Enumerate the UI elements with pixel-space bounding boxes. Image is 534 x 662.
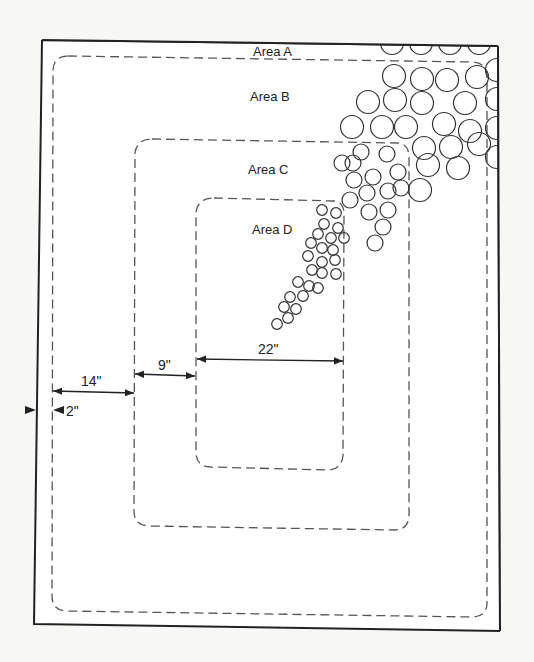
area-c-label: Area C xyxy=(248,162,288,177)
dimension-label-9in: 9" xyxy=(158,357,171,373)
dimension-arrowhead-outer-left xyxy=(25,406,36,414)
area-b-label: Area B xyxy=(250,89,290,104)
outer-frame xyxy=(34,40,500,631)
frame-mask-right xyxy=(498,46,534,662)
dimension-label-14in: 14" xyxy=(81,373,102,389)
area-a-label: Area A xyxy=(253,44,292,59)
dimension-label-2in: 2" xyxy=(66,403,79,419)
frame-mask-top xyxy=(0,0,534,46)
area-layout-diagram: Area A Area B Area C Area D 22" 9" 14" 2… xyxy=(0,0,534,662)
dimension-label-22in: 22" xyxy=(258,341,279,357)
area-d-label: Area D xyxy=(252,222,292,237)
